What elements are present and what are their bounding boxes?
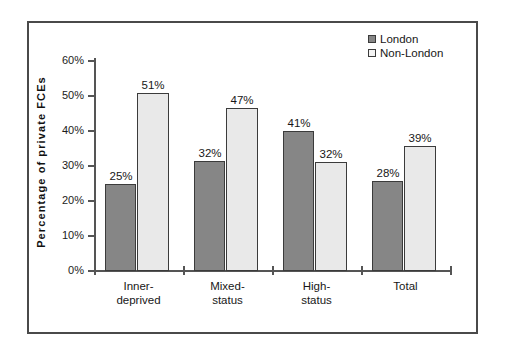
bar-value-london-high-status: 41% — [278, 117, 320, 129]
x-tick-boundary-2 — [272, 266, 274, 275]
y-tick-20 — [88, 200, 95, 202]
legend-item-london: London — [368, 32, 443, 46]
x-category-label-mixed-status-line2: status — [185, 293, 270, 307]
x-tick-start — [94, 266, 96, 275]
legend-item-non-london: Non-London — [368, 46, 443, 60]
x-category-label-mixed-status: Mixed- status — [185, 279, 270, 307]
bar-value-london-inner-deprived: 25% — [100, 170, 142, 182]
x-category-label-high-status: High- status — [274, 279, 359, 307]
bar-london-total — [372, 181, 403, 271]
y-tick-40 — [88, 130, 95, 132]
x-category-label-total: Total — [363, 279, 448, 293]
y-tick-label-60: 60% — [44, 55, 84, 66]
y-tick-label-50: 50% — [44, 90, 84, 101]
x-category-label-high-status-line1: High- — [274, 279, 359, 293]
legend-label-london: London — [380, 32, 418, 46]
bar-chart-figure: Percentage of private FCEs 60% 50% 40% 3… — [0, 0, 506, 353]
y-tick-label-0-wrap: 0% — [42, 265, 84, 276]
x-category-label-high-status-line2: status — [274, 293, 359, 307]
y-tick-label-40: 40% — [44, 125, 84, 136]
y-tick-label-30: 30% — [44, 160, 84, 171]
chart-legend: London Non-London — [363, 29, 448, 64]
x-tick-boundary-3 — [361, 266, 363, 275]
x-category-label-inner-deprived: Inner- deprived — [96, 279, 181, 307]
bar-non-london-high-status — [315, 162, 347, 271]
x-category-label-mixed-status-line1: Mixed- — [185, 279, 270, 293]
legend-swatch-non-london-icon — [368, 49, 376, 57]
y-tick-label-0: 0% — [44, 265, 84, 276]
x-category-label-inner-deprived-line2: deprived — [96, 293, 181, 307]
bar-value-non-london-high-status: 32% — [310, 148, 352, 160]
y-tick-30 — [88, 165, 95, 167]
x-category-label-total-line1: Total — [363, 279, 448, 293]
y-tick-label-20-wrap: 20% — [42, 195, 84, 206]
legend-swatch-london-icon — [368, 35, 376, 43]
y-tick-label-10-wrap: 10% — [42, 230, 84, 241]
y-tick-50 — [88, 95, 95, 97]
bar-value-non-london-total: 39% — [399, 132, 441, 144]
y-tick-label-10: 10% — [44, 230, 84, 241]
bar-value-non-london-mixed-status: 47% — [221, 94, 263, 106]
y-tick-60 — [88, 60, 95, 62]
x-category-label-inner-deprived-line1: Inner- — [96, 279, 181, 293]
bar-value-non-london-inner-deprived: 51% — [132, 79, 174, 91]
bar-value-london-total: 28% — [367, 167, 409, 179]
x-tick-boundary-1 — [183, 266, 185, 275]
legend-label-non-london: Non-London — [380, 46, 443, 60]
bar-non-london-total — [404, 146, 436, 271]
y-tick-label-50-wrap: 50% — [42, 90, 84, 101]
y-tick-10 — [88, 235, 95, 237]
y-tick-label-20: 20% — [44, 195, 84, 206]
bar-value-london-mixed-status: 32% — [189, 147, 231, 159]
y-tick-label-30-wrap: 30% — [42, 160, 84, 171]
bar-london-inner-deprived — [105, 184, 136, 271]
y-tick-label-40-wrap: 40% — [42, 125, 84, 136]
bar-non-london-inner-deprived — [137, 93, 169, 271]
bar-non-london-mixed-status — [226, 108, 258, 271]
y-tick-label-60-wrap: 60% — [42, 55, 84, 66]
bar-london-mixed-status — [194, 161, 225, 271]
x-tick-end — [450, 266, 452, 275]
